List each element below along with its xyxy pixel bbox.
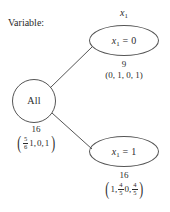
tree-node-x1-equals-1-caption: 16 ( 1, 4 5 0, 4 5 ): [86, 170, 162, 198]
fraction-numerator: 4: [118, 182, 123, 189]
tree-node-x1-equals-1-count: 16: [86, 170, 162, 180]
vector-fraction-four-fifths-second: 4 5: [132, 182, 137, 196]
vector-item-4: 1: [45, 139, 50, 148]
tree-node-root-caption: 16 ( 5 6 1, 0, 1 ): [0, 124, 72, 152]
tree-node-x1-equals-0-label: x1 = 0: [112, 36, 137, 46]
tree-node-root-count: 16: [0, 124, 72, 134]
node-equality-expression: = 0: [123, 35, 137, 46]
vector-fraction-five-sixths: 5 6: [23, 136, 28, 150]
tree-node-root-vector: ( 5 6 1, 0, 1 ): [16, 135, 56, 151]
fraction-denominator: 5: [118, 189, 123, 197]
tree-node-x1-equals-0-caption: 9 (0, 1, 0, 1): [89, 59, 159, 81]
tree-node-x1-equals-1-label: x1 = 1: [112, 147, 137, 157]
fraction-numerator: 4: [132, 182, 137, 189]
fraction-denominator: 5: [132, 189, 137, 197]
vector-fraction-four-fifths-first: 4 5: [118, 182, 123, 196]
node-variable-subscript: 1: [116, 40, 120, 47]
split-variable-label: x1: [89, 7, 159, 18]
vector-paren-close: ): [139, 181, 143, 197]
fraction-denominator: 6: [23, 143, 28, 151]
edge-root-to-x1-0: [50, 47, 92, 88]
node-equality-expression: = 1: [123, 146, 137, 157]
tree-node-x1-equals-0-vector: (0, 1, 0, 1): [105, 71, 143, 80]
tree-node-x1-equals-0[interactable]: x1 = 0: [89, 25, 159, 56]
vector-item-2: 1,: [29, 139, 36, 148]
tree-node-x1-equals-1-vector: ( 1, 4 5 0, 4 5 ): [104, 181, 145, 197]
tree-node-root[interactable]: All: [12, 79, 56, 123]
split-variable-symbol: x: [120, 7, 124, 18]
vector-item-3: 0,: [37, 139, 44, 148]
node-variable-subscript: 1: [116, 151, 120, 158]
vector-paren-open: (: [105, 181, 109, 197]
tree-node-root-label: All: [27, 96, 40, 106]
vector-paren-close: ): [51, 135, 55, 151]
tree-node-x1-equals-1[interactable]: x1 = 1: [89, 136, 159, 167]
fraction-numerator: 5: [23, 136, 28, 143]
vector-paren-open: (: [17, 135, 21, 151]
split-variable-subscript: 1: [125, 12, 128, 19]
tree-node-x1-equals-0-count: 9: [89, 59, 159, 69]
variable-prompt-label: Variable:: [8, 17, 44, 28]
vector-item-3: 0,: [125, 185, 132, 194]
vector-item-1: 1,: [111, 185, 118, 194]
decision-tree-diagram: Variable: x1 All 16 ( 5 6 1, 0, 1 ) x1 =…: [0, 0, 170, 212]
